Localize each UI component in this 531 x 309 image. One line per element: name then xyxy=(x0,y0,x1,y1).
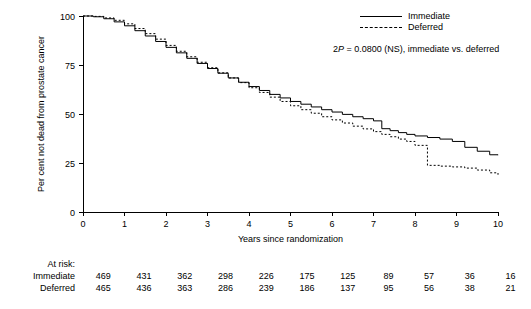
legend-label-immediate: Immediate xyxy=(408,11,450,22)
at-risk-cell: 298 xyxy=(205,270,246,282)
x-tick-label: 2 xyxy=(163,219,168,229)
at-risk-cell: 363 xyxy=(164,282,205,294)
at-risk-cell: 38 xyxy=(449,282,490,294)
at-risk-row: Immediate46943136229822617512589573616 xyxy=(0,270,531,282)
chart-legend: Immediate Deferred xyxy=(360,11,450,33)
survival-chart: 0255075100012345678910Years since random… xyxy=(0,0,531,258)
legend-label-deferred: Deferred xyxy=(408,22,443,33)
at-risk-cell: 36 xyxy=(449,270,490,282)
y-axis-title: Per cent not dead from prostate cancer xyxy=(36,36,46,192)
at-risk-cell: 16 xyxy=(490,270,531,282)
at-risk-cell: 286 xyxy=(205,282,246,294)
pvalue-suffix: = 0.0800 (NS), immediate vs. deferred xyxy=(344,44,499,54)
at-risk-cell: 137 xyxy=(327,282,368,294)
y-tick-label: 100 xyxy=(60,12,75,22)
x-tick-label: 10 xyxy=(493,219,503,229)
y-tick-label: 75 xyxy=(65,61,75,71)
x-tick-label: 4 xyxy=(246,219,251,229)
at-risk-row-label: Deferred xyxy=(0,282,83,294)
at-risk-cell: 469 xyxy=(83,270,124,282)
x-axis-title: Years since randomization xyxy=(238,234,343,244)
legend-swatch-solid-icon xyxy=(360,13,402,20)
at-risk-cell: 362 xyxy=(164,270,205,282)
at-risk-cell: 465 xyxy=(83,282,124,294)
curve-deferred xyxy=(83,16,498,175)
at-risk-table: At risk:Immediate46943136229822617512589… xyxy=(0,258,531,294)
at-risk-title: At risk: xyxy=(0,258,83,270)
legend-item-deferred: Deferred xyxy=(360,22,450,33)
y-tick-label: 0 xyxy=(70,208,75,218)
at-risk-cell: 431 xyxy=(124,270,165,282)
at-risk-cell: 226 xyxy=(246,270,287,282)
y-tick-label: 25 xyxy=(65,159,75,169)
at-risk-row: Deferred46543636328623918613795563821 xyxy=(0,282,531,294)
x-tick-label: 8 xyxy=(412,219,417,229)
x-tick-label: 7 xyxy=(371,219,376,229)
at-risk-row-label: Immediate xyxy=(0,270,83,282)
at-risk-cell: 436 xyxy=(124,282,165,294)
at-risk-cell: 57 xyxy=(409,270,450,282)
x-tick-label: 3 xyxy=(205,219,210,229)
figure-root: 0255075100012345678910Years since random… xyxy=(0,0,531,309)
at-risk-cell: 95 xyxy=(368,282,409,294)
at-risk-title-filler xyxy=(83,258,531,270)
curves-group xyxy=(83,16,498,175)
at-risk-grid: At risk:Immediate46943136229822617512589… xyxy=(0,258,531,294)
curve-immediate xyxy=(83,16,498,155)
pvalue-annotation: 2P = 0.0800 (NS), immediate vs. deferred xyxy=(333,44,499,54)
at-risk-cell: 239 xyxy=(246,282,287,294)
legend-item-immediate: Immediate xyxy=(360,11,450,22)
legend-swatch-dashed-icon xyxy=(360,24,402,31)
y-tick-label: 50 xyxy=(65,110,75,120)
at-risk-cell: 175 xyxy=(287,270,328,282)
x-tick-label: 1 xyxy=(122,219,127,229)
x-tick-label: 0 xyxy=(80,219,85,229)
at-risk-cell: 125 xyxy=(327,270,368,282)
x-tick-label: 6 xyxy=(329,219,334,229)
at-risk-cell: 21 xyxy=(490,282,531,294)
at-risk-cell: 186 xyxy=(287,282,328,294)
x-tick-label: 5 xyxy=(288,219,293,229)
at-risk-cell: 89 xyxy=(368,270,409,282)
x-tick-label: 9 xyxy=(454,219,459,229)
at-risk-title-row: At risk: xyxy=(0,258,531,270)
at-risk-cell: 56 xyxy=(409,282,450,294)
